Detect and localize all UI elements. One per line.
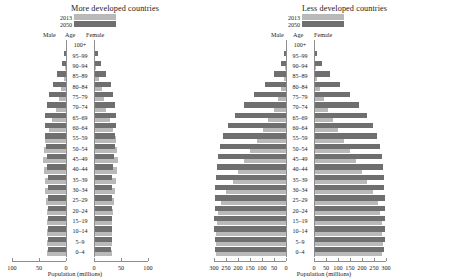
legend-swatch-2013 <box>74 14 116 20</box>
bar-2050 <box>94 133 115 138</box>
age-label: 0–4 <box>286 249 314 255</box>
axis-tick <box>386 258 387 261</box>
axis-tick <box>94 258 95 261</box>
age-band <box>12 195 66 205</box>
bar-2050 <box>215 195 286 200</box>
age-label: 55–59 <box>286 135 314 141</box>
axis-tick <box>338 258 339 261</box>
age-label: 70–74 <box>286 104 314 110</box>
axis-tick <box>350 258 351 261</box>
age-band <box>94 216 148 226</box>
age-band <box>314 61 386 71</box>
male-half-less-developed <box>214 40 286 257</box>
age-band <box>314 226 386 236</box>
age-label: 90–94 <box>66 63 94 69</box>
bar-2050 <box>265 82 286 87</box>
age-label: 75–79 <box>286 94 314 100</box>
age-label: 20–24 <box>286 208 314 214</box>
axis-line <box>12 261 66 262</box>
age-label: 35–39 <box>66 177 94 183</box>
axis-title-less-developed: Population (millions) <box>244 270 404 277</box>
bar-2050 <box>94 175 112 180</box>
age-band <box>94 61 148 71</box>
axis-spine-right-less-developed <box>314 40 315 257</box>
bar-2050 <box>48 206 66 211</box>
age-label: 95–99 <box>66 53 94 59</box>
age-band <box>12 236 66 246</box>
age-label: 25–29 <box>66 197 94 203</box>
age-label: 5–9 <box>286 239 314 245</box>
age-band <box>12 133 66 143</box>
age-band <box>214 154 286 164</box>
age-band <box>214 133 286 143</box>
axis-spine-right-more-developed <box>94 40 95 257</box>
bar-2050 <box>314 164 383 169</box>
age-label: 20–24 <box>66 208 94 214</box>
axis-line <box>214 261 286 262</box>
age-band <box>314 71 386 81</box>
bar-2050 <box>314 247 384 252</box>
age-label: 10–14 <box>286 228 314 234</box>
bar-2050 <box>94 144 115 149</box>
bar-2050 <box>48 247 66 252</box>
age-band <box>12 71 66 81</box>
age-band <box>214 174 286 184</box>
bar-2050 <box>314 206 385 211</box>
age-band <box>214 102 286 112</box>
axis-tick-label: 250 <box>221 264 230 271</box>
legend-swatch-2050 <box>74 21 116 27</box>
axis-tick <box>286 258 287 261</box>
legend-label-2013: 2013 <box>288 15 300 21</box>
age-band <box>314 123 386 133</box>
age-band <box>314 40 386 50</box>
bar-2050 <box>216 175 286 180</box>
age-band <box>94 247 148 257</box>
axis-tick-label: 200 <box>233 264 242 271</box>
age-band <box>214 226 286 236</box>
age-band <box>214 216 286 226</box>
age-label: 50–54 <box>66 146 94 152</box>
axis-tick <box>374 258 375 261</box>
bar-2050 <box>314 154 382 159</box>
age-label: 45–49 <box>286 156 314 162</box>
age-band <box>214 40 286 50</box>
bar-2050 <box>48 216 66 221</box>
bar-2050 <box>314 113 367 118</box>
bar-2050 <box>215 185 286 190</box>
age-band <box>94 40 148 50</box>
column-header-age: Age <box>293 31 303 38</box>
axis-title-more-developed: Population (millions) <box>0 270 150 277</box>
bar-2050 <box>94 216 112 221</box>
axis-tick <box>214 258 215 261</box>
age-label: 40–44 <box>66 166 94 172</box>
bar-2050 <box>235 113 286 118</box>
axis-tick <box>226 258 227 261</box>
age-band <box>214 71 286 81</box>
age-band <box>94 71 148 81</box>
age-band <box>314 154 386 164</box>
axis-tick <box>121 258 122 261</box>
age-band <box>94 236 148 246</box>
age-label: 35–39 <box>286 177 314 183</box>
age-band <box>12 102 66 112</box>
age-band <box>314 236 386 246</box>
axis-tick <box>148 258 149 261</box>
bar-2050 <box>215 247 286 252</box>
age-band <box>314 195 386 205</box>
age-label: 10–14 <box>66 228 94 234</box>
age-band <box>12 123 66 133</box>
age-band <box>314 112 386 122</box>
age-band <box>214 195 286 205</box>
age-band <box>94 143 148 153</box>
bar-2050 <box>217 164 286 169</box>
bar-2050 <box>45 123 66 128</box>
bar-2050 <box>57 71 66 76</box>
bar-2050 <box>214 216 286 221</box>
bar-2050 <box>45 133 66 138</box>
legend-label-2050: 2050 <box>60 22 72 28</box>
age-label: 5–9 <box>66 239 94 245</box>
plot-area-less-developed: 100+95–9990–9485–8980–8475–7970–7465–696… <box>214 40 454 257</box>
panel-title-less-developed: Less developed countries <box>230 4 459 13</box>
bar-2050 <box>94 102 115 107</box>
male-half-more-developed <box>12 40 66 257</box>
